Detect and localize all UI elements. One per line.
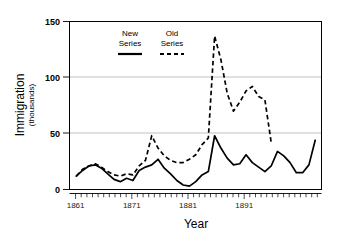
y-axis-title: Immigration [13, 74, 27, 137]
immigration-line-chart: 0 50 100 150 Immigration (thousands) [0, 0, 339, 243]
ytick-label-0: 0 [55, 185, 60, 195]
legend-new-series-line1: New [122, 29, 138, 38]
chart-canvas: 0 50 100 150 Immigration (thousands) [0, 0, 339, 243]
x-axis-title: Year [184, 217, 208, 231]
plot-frame [70, 22, 322, 190]
ytick-label-50: 50 [50, 129, 60, 139]
y-axis-subtitle: (thousands) [27, 84, 36, 127]
xtick-label-1881: 1881 [179, 201, 197, 210]
series-line-new [76, 136, 315, 186]
x-minor-ticks [76, 194, 318, 200]
legend-new-series-line2: Series [119, 39, 142, 48]
legend-old-series-line2: Series [161, 39, 184, 48]
series-line-old [76, 36, 271, 176]
xtick-label-1891: 1891 [235, 201, 253, 210]
chart-legend: New Series Old Series [118, 29, 184, 54]
xtick-label-1871: 1871 [123, 201, 141, 210]
ytick-label-100: 100 [45, 73, 60, 83]
legend-old-series-line1: Old [166, 29, 178, 38]
xtick-label-1861: 1861 [67, 201, 85, 210]
ytick-label-150: 150 [45, 17, 60, 27]
